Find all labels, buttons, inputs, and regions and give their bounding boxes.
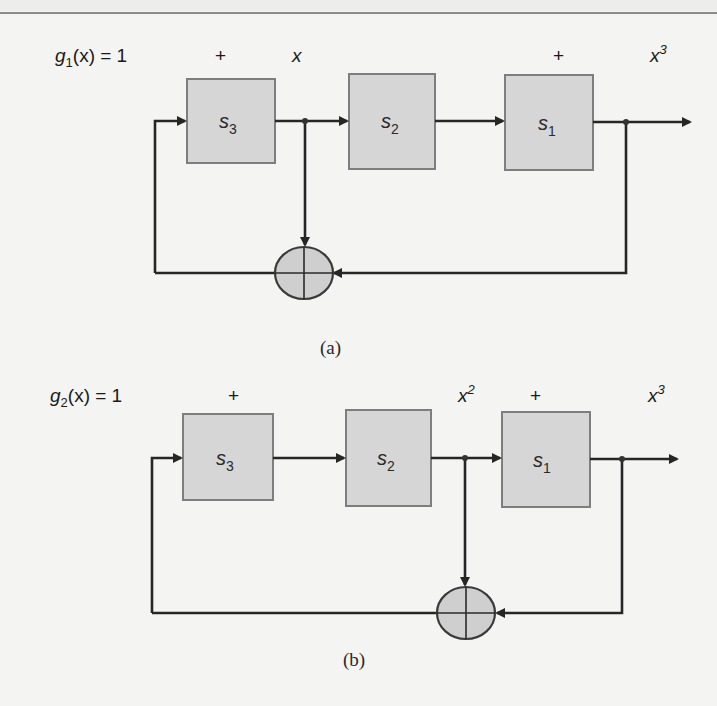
term-x-label: x <box>291 45 303 66</box>
diagram-a: g1(x) = 1 + x + x3 s3 s2 s1 <box>55 42 690 359</box>
xor-summing-junction-b <box>437 587 495 639</box>
tap-node <box>462 455 468 461</box>
block-s2: s2 <box>346 410 431 506</box>
diagram-b: g2(x) = 1 + x2 + x3 s3 s2 s1 <box>50 382 677 671</box>
term-x2-label: x2 <box>457 382 476 406</box>
block-s3: s3 <box>187 79 275 163</box>
plus-label-2: + <box>553 45 564 66</box>
caption-b: (b) <box>343 649 365 671</box>
term-x3-label: x3 <box>649 42 668 66</box>
plus-label-1: + <box>228 385 239 406</box>
block-s3: s3 <box>183 414 273 500</box>
tap-node <box>623 119 629 125</box>
tap-node <box>619 456 625 462</box>
plus-label-2: + <box>530 385 541 406</box>
polynomial-label-b: g2(x) = 1 <box>50 385 122 410</box>
lfsr-figure: g1(x) = 1 + x + x3 s3 s2 s1 <box>0 0 717 706</box>
block-s2: s2 <box>349 74 435 169</box>
xor-summing-junction-a <box>275 247 333 299</box>
block-s1: s1 <box>505 75 593 170</box>
plus-label-1: + <box>215 45 226 66</box>
term-x3-label: x3 <box>647 382 666 406</box>
caption-a: (a) <box>320 337 341 359</box>
polynomial-label-a: g1(x) = 1 <box>55 45 127 70</box>
block-s1: s1 <box>502 412 590 507</box>
tap-node <box>302 118 308 124</box>
